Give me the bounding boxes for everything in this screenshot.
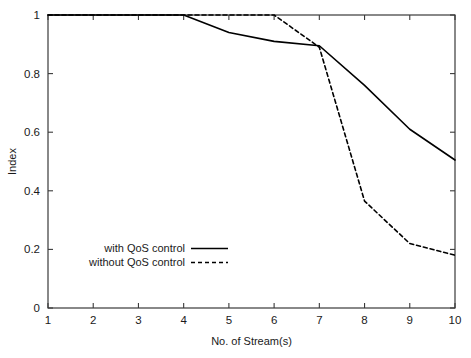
x-tick-label-6: 6: [271, 314, 277, 326]
legend-label-with-qos: with QoS control: [103, 242, 185, 254]
line-chart-figure: 12345678910 00.20.40.60.81 No. of Stream…: [0, 0, 471, 358]
x-tick-label-10: 10: [449, 314, 462, 326]
x-tick-label-1: 1: [45, 314, 51, 326]
x-tick-label-5: 5: [226, 314, 232, 326]
y-axis-title: Index: [6, 148, 18, 175]
x-tick-label-9: 9: [407, 314, 413, 326]
y-tick-label-1: 1: [34, 9, 40, 21]
x-tick-label-4: 4: [180, 314, 187, 326]
x-axis-title: No. of Stream(s): [211, 335, 292, 347]
y-tick-label-0.6: 0.6: [24, 126, 40, 138]
y-tick-label-0: 0: [34, 302, 40, 314]
y-tick-label-0.4: 0.4: [24, 185, 41, 197]
y-tick-label-0.2: 0.2: [24, 243, 40, 255]
x-tick-label-8: 8: [361, 314, 367, 326]
x-tick-label-2: 2: [90, 314, 96, 326]
y-tick-label-0.8: 0.8: [24, 68, 40, 80]
legend-label-without-qos: without QoS control: [88, 256, 185, 268]
x-tick-label-7: 7: [316, 314, 322, 326]
figure-background: [0, 0, 471, 358]
x-tick-label-3: 3: [135, 314, 141, 326]
